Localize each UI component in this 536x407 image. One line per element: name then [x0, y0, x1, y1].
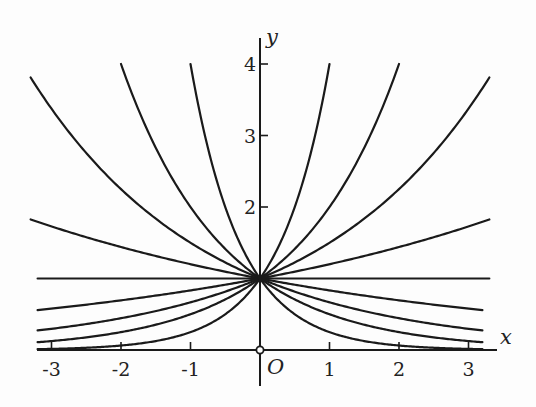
curve-5 [31, 219, 483, 310]
y-axis-label: y [265, 25, 279, 49]
curve-6 [31, 78, 483, 331]
origin-label: O [267, 355, 284, 379]
curve-3 [38, 220, 490, 311]
exponential-functions-chart: -3-2-1123234xyO [0, 0, 536, 407]
plot-area: -3-2-1123234xyO [0, 0, 536, 407]
x-tick-label: 2 [393, 358, 405, 380]
curve-7 [121, 64, 482, 342]
y-tick-label: 4 [244, 53, 256, 75]
x-tick-label: -1 [181, 358, 200, 380]
x-tick-label: 3 [462, 358, 474, 380]
y-tick-label: 2 [244, 196, 256, 218]
y-tick-label: 3 [244, 125, 256, 147]
x-tick-label: -2 [112, 358, 131, 380]
x-tick-label: 1 [323, 358, 335, 380]
curve-2 [38, 77, 490, 330]
x-tick-label: -3 [42, 358, 61, 380]
curve-1 [38, 64, 399, 342]
label-group: -3-2-1123234xyO [42, 25, 512, 380]
x-axis-label: x [500, 325, 512, 349]
origin-marker [256, 346, 263, 353]
